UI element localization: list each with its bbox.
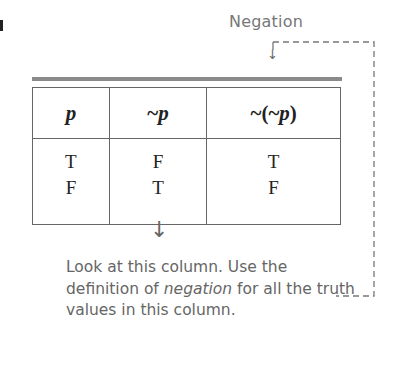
annotation-note: Look at this column. Use the definition …	[66, 257, 356, 322]
column-p-values: TF	[33, 139, 110, 225]
arrow-down-icon: ↓	[150, 217, 168, 242]
column-not-not-p-values: TF	[207, 139, 341, 225]
header-not-p: ~p	[109, 88, 206, 139]
values-row: TF FT TF	[33, 139, 341, 225]
header-row: p ~p ~(~p)	[33, 88, 341, 139]
header-p: p	[33, 88, 110, 139]
header-not-not-p: ~(~p)	[207, 88, 341, 139]
table-top-rule	[32, 77, 342, 81]
truth-table: p ~p ~(~p) TF FT TF	[32, 87, 341, 225]
column-not-p-values: FT	[109, 139, 206, 225]
